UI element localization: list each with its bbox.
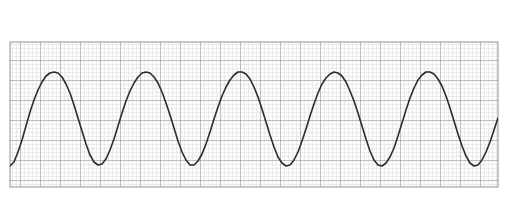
ecg-grid-lines bbox=[10, 42, 498, 187]
ecg-waveform-chart bbox=[0, 0, 508, 204]
